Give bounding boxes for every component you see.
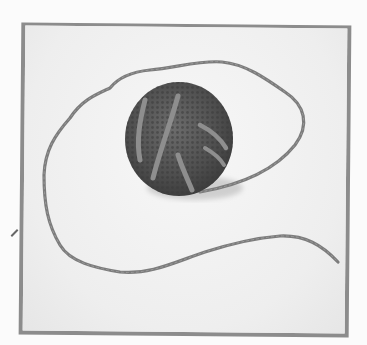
crochet-ball-illustration xyxy=(0,0,367,345)
crochet-ball xyxy=(125,82,233,196)
